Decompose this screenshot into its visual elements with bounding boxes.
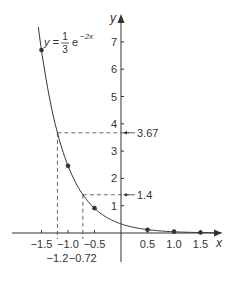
data-point [66, 164, 71, 169]
exponential-decay-chart: xy −1.5−1.0−0.50.51.01.51234567 3.67−1.2… [0, 0, 237, 281]
y-tick-label: 4 [111, 118, 117, 130]
equation-exponent: −2x [80, 32, 94, 41]
equation-label: y = 1 3 e −2x [43, 31, 94, 55]
function-curve [38, 27, 221, 233]
y-value-label: 3.67 [137, 127, 158, 139]
plot-area: xy −1.5−1.0−0.50.51.01.51234567 3.67−1.2… [0, 0, 237, 281]
y-axis-arrow-icon [118, 14, 125, 23]
pointer-arrow-icon [123, 131, 127, 135]
x-tick-label: −1.5 [31, 238, 53, 250]
pointer-arrow-icon [123, 193, 127, 197]
data-point [92, 206, 97, 211]
y-tick-label: 3 [111, 145, 117, 157]
data-point [172, 229, 177, 234]
x-tick-label: 1.5 [193, 238, 208, 250]
data-point [39, 48, 44, 53]
equation-numerator: 1 [62, 31, 68, 42]
equation-denominator: 3 [62, 44, 68, 55]
y-axis-label: y [109, 11, 117, 25]
x-value-label: −0.72 [69, 252, 97, 264]
equation-base: e [72, 36, 78, 48]
x-tick-label: −0.5 [84, 238, 106, 250]
x-tick-label: 0.5 [140, 238, 155, 250]
y-tick-label: 5 [111, 91, 117, 103]
equation-lhs: y = [43, 36, 60, 48]
y-tick-label: 6 [111, 63, 117, 75]
y-value-label: 1.4 [137, 189, 152, 201]
y-tick-label: 7 [111, 36, 117, 48]
x-tick-label: −1.0 [57, 238, 79, 250]
data-point [145, 227, 150, 232]
x-axis-label: x [215, 236, 223, 250]
data-point [198, 230, 203, 235]
axes: xy [12, 11, 223, 262]
y-tick-label: 2 [111, 172, 117, 184]
y-tick-label: 1 [111, 200, 117, 212]
x-value-label: −1.2 [47, 252, 69, 264]
x-tick-label: 1.0 [166, 238, 181, 250]
